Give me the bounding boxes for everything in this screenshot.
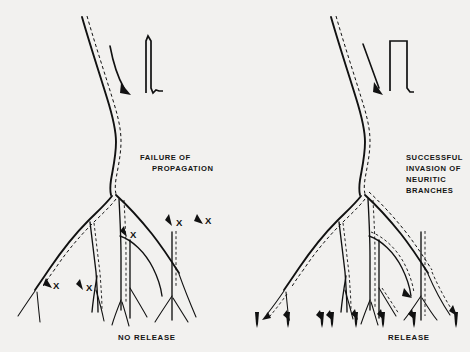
left-terminal-f2	[173, 298, 188, 322]
right-terminal-f2	[422, 298, 437, 320]
left-panel-title-line-2: PROPAGATION	[152, 164, 213, 173]
left-terminal-c2	[122, 302, 129, 326]
right-impulse-sub-c	[373, 200, 375, 308]
left-impulse-left-primary	[42, 199, 116, 288]
left-stimulus-waveform	[146, 36, 163, 93]
left-sub-branch-c	[119, 199, 121, 310]
release-arrow	[381, 312, 385, 328]
left-panel: X X X X X FAILURE OF PROPAGATION NO RELE…	[18, 16, 213, 342]
left-axon-trunk	[82, 17, 116, 195]
left-impulse-sub-c	[124, 200, 126, 302]
right-panel: SUCCESSFUL INVASION OF NEURITIC BRANCHES…	[255, 16, 463, 342]
release-arrow	[454, 312, 458, 328]
right-conduction-arrow-shaft	[363, 44, 379, 88]
right-terminal-arrowheads	[262, 288, 457, 321]
release-arrow	[330, 312, 334, 328]
right-terminal-a1	[267, 291, 284, 314]
left-terminal-b1	[96, 290, 104, 321]
left-conduction-arrow-shaft	[110, 46, 124, 88]
left-terminal-right-outer	[179, 274, 196, 317]
right-impulse-right-outer	[432, 272, 454, 313]
right-sub-branch-c	[368, 199, 370, 310]
left-conduction-arrow-head	[120, 83, 131, 95]
block-marker-x: X	[53, 280, 60, 291]
right-panel-title-line-1: SUCCESSFUL	[406, 153, 463, 162]
right-panel-title-line-2: INVASION OF	[406, 164, 461, 173]
block-marker-x: X	[205, 215, 212, 226]
right-impulse-left-primary	[291, 199, 365, 288]
left-block-markers: X X X X X	[53, 215, 212, 293]
left-panel-title-line-1: FAILURE OF	[140, 153, 191, 162]
left-sub-branch-b	[92, 276, 97, 312]
left-sub-branch-d	[120, 236, 162, 296]
right-panel-title-line-4: BRANCHES	[406, 186, 453, 195]
right-impulse-terminal-e1	[382, 288, 399, 314]
release-arrow	[255, 312, 259, 328]
block-marker-x: X	[130, 229, 137, 240]
right-panel-caption: RELEASE	[388, 333, 430, 342]
left-terminal-a1	[18, 291, 35, 316]
right-panel-title-line-3: NEURITIC	[406, 175, 446, 184]
release-arrow	[354, 312, 358, 328]
release-arrow	[320, 312, 324, 328]
neuron-propagation-diagram: X X X X X FAILURE OF PROPAGATION NO RELE…	[0, 0, 470, 352]
block-marker-x: X	[176, 217, 183, 228]
left-panel-caption: NO RELEASE	[118, 333, 176, 342]
figure-root: X X X X X FAILURE OF PROPAGATION NO RELE…	[0, 0, 470, 352]
release-arrow	[412, 312, 416, 328]
right-stimulus-waveform	[390, 41, 414, 92]
left-terminal-c1	[112, 300, 121, 325]
right-impulse-dashed-trunk	[336, 16, 370, 194]
left-terminal-e1	[130, 288, 147, 317]
right-impulse-terminal-a1	[270, 294, 287, 316]
right-terminal-c2	[371, 302, 378, 325]
right-terminal-right-outer	[428, 274, 450, 315]
left-terminal-a2	[37, 292, 40, 322]
right-terminal-c1	[361, 300, 370, 324]
left-terminal-f1	[155, 296, 172, 322]
block-marker-x: X	[86, 282, 93, 293]
right-sub-branch-b	[341, 276, 346, 312]
right-axon-trunk	[331, 17, 365, 195]
left-impulse-dashed-trunk	[87, 16, 121, 194]
